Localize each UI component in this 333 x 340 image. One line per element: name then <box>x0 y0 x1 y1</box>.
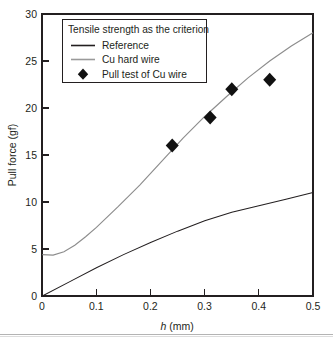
series-reference-curve <box>42 193 313 296</box>
y-axis-ticks <box>42 14 49 296</box>
legend-label-pull-test: Pull test of Cu wire <box>102 69 187 80</box>
x-tick-label: 0.5 <box>306 300 321 312</box>
x-tick-label: 0.4 <box>251 300 266 312</box>
figure-container: 30 25 20 15 10 5 0 0 0.1 0.2 0.3 0.4 0.5… <box>0 0 333 340</box>
legend-label-cu-hard-wire: Cu hard wire <box>102 54 160 65</box>
data-point-marker <box>166 139 179 153</box>
data-point-marker <box>263 73 276 87</box>
x-tick-label: 0.1 <box>89 300 104 312</box>
legend-label-reference: Reference <box>102 40 149 51</box>
y-tick-label: 20 <box>25 102 37 114</box>
y-tick-label: 30 <box>25 8 37 20</box>
y-tick-label: 10 <box>25 196 37 208</box>
y-tick-label: 5 <box>31 243 37 255</box>
x-axis-tick-labels: 0 0.1 0.2 0.3 0.4 0.5 <box>39 300 320 312</box>
x-axis-title: h (mm) <box>160 320 193 332</box>
legend-title: Tensile strength as the criterion <box>68 24 209 35</box>
y-axis-tick-labels: 30 25 20 15 10 5 0 <box>25 8 37 302</box>
data-point-marker <box>225 82 238 96</box>
y-tick-label: 25 <box>25 55 37 67</box>
footer-divider <box>0 334 333 335</box>
y-tick-label: 0 <box>31 290 37 302</box>
pull-force-vs-h-chart: 30 25 20 15 10 5 0 0 0.1 0.2 0.3 0.4 0.5… <box>0 0 333 340</box>
y-tick-label: 15 <box>25 149 37 161</box>
chart-legend: Tensile strength as the criterion Refere… <box>62 20 209 83</box>
x-tick-label: 0.3 <box>197 300 212 312</box>
x-axis-title-unit: (mm) <box>166 320 193 332</box>
x-tick-label: 0.2 <box>143 300 158 312</box>
x-axis-ticks <box>42 289 313 296</box>
series-pull-test-markers <box>166 73 276 153</box>
y-axis-title: Pull force (gf) <box>6 124 18 186</box>
data-point-marker <box>204 110 217 124</box>
x-tick-label: 0 <box>39 300 45 312</box>
footer-divider-secondary <box>0 336 333 337</box>
